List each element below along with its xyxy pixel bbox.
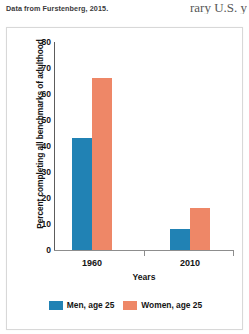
legend-swatch-women-icon (123, 301, 137, 310)
bar-women-2010 (190, 208, 210, 250)
y-tick-30: 30 (31, 168, 51, 176)
y-tick-40: 40 (31, 142, 51, 150)
x-axis-tick-mark-center (144, 250, 145, 256)
legend-item-women: Women, age 25 (123, 300, 202, 310)
figure-panel: Percent completing all benchmarks of adu… (6, 27, 243, 330)
legend-item-men: Men, age 25 (49, 300, 114, 310)
x-group-label-2010: 2010 (160, 258, 220, 268)
source-note: Data from Furstenberg, 2015. (6, 4, 108, 13)
body-text-fragment: rary U.S. y (190, 0, 247, 14)
y-tick-20: 20 (31, 194, 51, 202)
bar-men-2010 (170, 229, 190, 250)
y-tick-60: 60 (31, 90, 51, 98)
bar-chart-plot-area: Percent completing all benchmarks of adu… (7, 28, 244, 286)
y-axis-line (54, 42, 55, 250)
legend-swatch-men-icon (49, 301, 63, 310)
x-group-label-1960: 1960 (62, 258, 122, 268)
x-axis-tick-mark-right (233, 250, 234, 256)
page-header-captions: Data from Furstenberg, 2015. rary U.S. y (0, 0, 249, 24)
chart-legend: Men, age 25 Women, age 25 (7, 300, 244, 310)
legend-label-women: Women, age 25 (141, 300, 202, 310)
y-tick-50: 50 (31, 116, 51, 124)
legend-label-men: Men, age 25 (67, 300, 114, 310)
y-tick-10: 10 (31, 220, 51, 228)
y-tick-80: 80 (31, 38, 51, 46)
bar-women-1960 (92, 78, 112, 250)
y-axis-tick-labels: 80 70 60 50 40 30 20 10 0 (29, 28, 51, 286)
y-tick-70: 70 (31, 64, 51, 72)
x-axis-label: Years (54, 272, 234, 282)
bar-men-1960 (72, 138, 92, 250)
y-tick-0: 0 (31, 246, 51, 254)
